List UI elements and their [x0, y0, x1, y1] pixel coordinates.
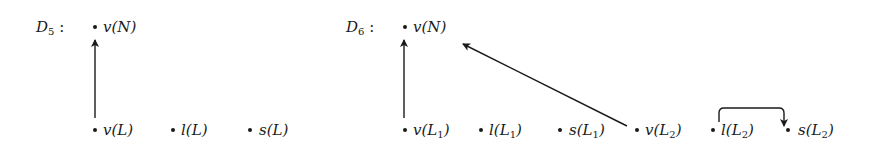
node-s-l: s(L) — [259, 123, 288, 138]
node-bullet — [479, 128, 483, 132]
node-l-l2: l(L2) — [721, 123, 754, 140]
node-v-n: v(N) — [103, 20, 136, 35]
node-bullet — [786, 128, 790, 132]
node-bullet — [635, 128, 639, 132]
node-bullet — [558, 128, 562, 132]
node-bullet — [93, 25, 97, 29]
node-l-l1: l(L1) — [489, 123, 522, 140]
node-l-l: l(L) — [181, 123, 207, 138]
node-v-l: v(L) — [103, 123, 133, 138]
node-v-n: v(N) — [413, 20, 446, 35]
node-v-l1: v(L1) — [413, 123, 450, 140]
node-bullet — [93, 128, 97, 132]
node-bullet — [248, 128, 252, 132]
node-bullet — [403, 25, 407, 29]
diagram-title: D6 : — [346, 20, 374, 37]
node-v-l2: v(L2) — [645, 123, 682, 140]
diagram-title: D5 : — [36, 20, 64, 37]
node-bullet — [711, 128, 715, 132]
node-s-l1: s(L1) — [569, 123, 605, 140]
node-bullet — [403, 128, 407, 132]
node-bullet — [171, 128, 175, 132]
node-s-l2: s(L2) — [798, 123, 834, 140]
d6-edge-vL2-to-vN — [463, 44, 627, 126]
